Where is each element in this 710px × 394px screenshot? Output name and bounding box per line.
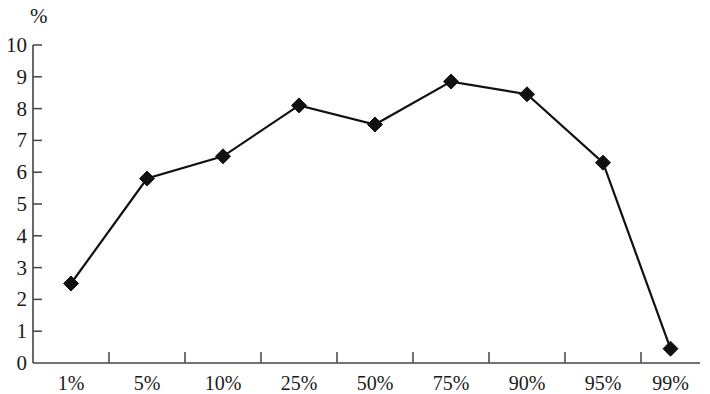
data-point-marker [140, 171, 155, 186]
plot-area [0, 0, 710, 394]
y-axis-tick-label: 10 [6, 35, 27, 56]
axis-lines [33, 45, 700, 363]
line-chart: % 012345678910 1%5%10%25%50%75%90%95%99% [0, 0, 710, 394]
data-point-marker [368, 117, 383, 132]
x-axis-tick-label: 25% [281, 373, 318, 393]
x-axis-ticks [109, 352, 641, 363]
x-axis-tick-label: 5% [134, 373, 161, 393]
y-axis-tick-label: 5 [17, 194, 28, 215]
y-axis-ticks [33, 45, 42, 331]
y-axis-tick-label: 7 [17, 130, 28, 151]
y-axis-tick-label: 2 [17, 289, 28, 310]
y-axis-tick-label: 9 [17, 66, 28, 87]
data-point-marker [444, 74, 459, 89]
y-axis-tick-label: 1 [17, 321, 28, 342]
data-point-marker [64, 276, 79, 291]
data-point-markers [64, 74, 679, 356]
y-axis-tick-label: 0 [17, 353, 28, 374]
data-point-marker [216, 149, 231, 164]
x-axis-tick-label: 50% [357, 373, 394, 393]
x-axis-tick-label: 95% [585, 373, 622, 393]
x-axis-tick-label: 90% [509, 373, 546, 393]
y-axis-tick-label: 3 [17, 257, 28, 278]
data-point-marker [292, 98, 307, 113]
data-point-marker [663, 341, 678, 356]
x-axis-tick-label: 1% [58, 373, 85, 393]
x-axis-tick-label: 10% [205, 373, 242, 393]
x-axis-tick-label: 75% [433, 373, 470, 393]
y-axis-tick-label: 6 [17, 162, 28, 183]
y-axis-tick-label: 4 [17, 225, 28, 246]
x-axis-tick-label: 99% [652, 373, 689, 393]
y-axis-tick-label: 8 [17, 98, 28, 119]
